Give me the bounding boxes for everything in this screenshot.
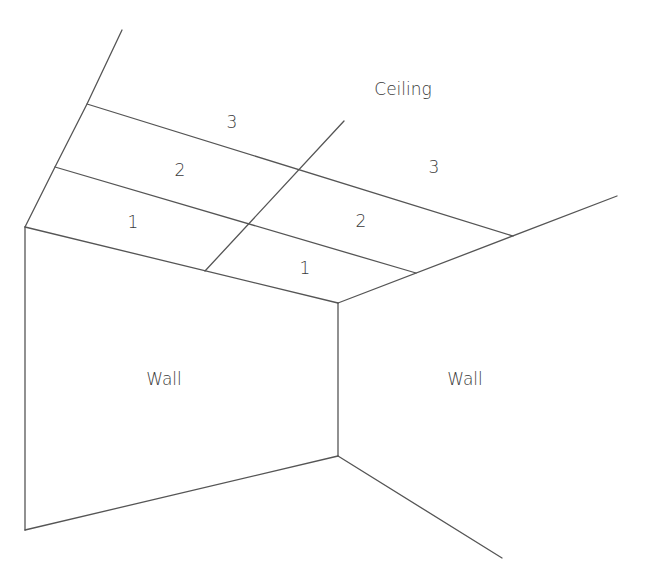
panel-left-3: 3 (227, 112, 238, 132)
left-wall-floor-edge (25, 456, 338, 530)
room-diagram (0, 0, 648, 575)
ceiling-right-wall-edge (338, 196, 617, 303)
panel-left-2: 2 (175, 160, 186, 180)
panel-center-divider (205, 121, 344, 271)
right-wall-label: Wall (447, 369, 483, 389)
ceiling-label: Ceiling (374, 79, 431, 99)
left-wall-label: Wall (146, 369, 182, 389)
ceiling-left-edge (25, 30, 122, 227)
ceiling-left-wall-edge (25, 227, 338, 303)
panel-right-1: 1 (300, 258, 311, 278)
panel-left-1: 1 (128, 212, 139, 232)
right-wall-floor-edge (338, 456, 502, 558)
panel-divider-2-3 (87, 104, 513, 236)
panel-right-3: 3 (429, 157, 440, 177)
panel-right-2: 2 (356, 211, 367, 231)
